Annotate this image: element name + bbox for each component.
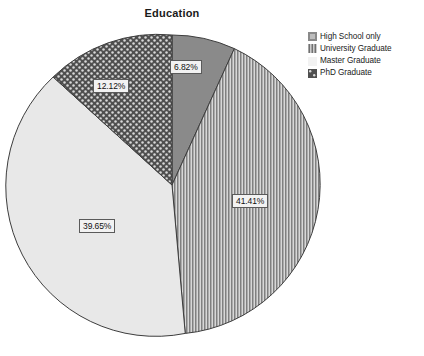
legend-swatch-icon-university-graduate xyxy=(308,44,317,53)
legend-item-university-graduate[interactable]: University Graduate xyxy=(308,43,424,55)
legend-label: University Graduate xyxy=(320,44,391,54)
legend-swatch-icon-master-graduate xyxy=(308,57,317,66)
legend-swatch-icon-phd-graduate xyxy=(308,69,317,78)
slice-value-high-school-only: 6.82% xyxy=(170,60,202,74)
legend-item-phd-graduate[interactable]: PhD Graduate xyxy=(308,68,424,80)
legend-label: PhD Graduate xyxy=(320,68,372,78)
legend: High School only University Graduate Mas… xyxy=(308,31,424,80)
legend-swatch-icon-high-school-only xyxy=(308,32,317,41)
legend-item-high-school-only[interactable]: High School only xyxy=(308,31,424,43)
pie-slices xyxy=(6,34,320,336)
legend-item-master-graduate[interactable]: Master Graduate xyxy=(308,55,424,67)
legend-label: High School only xyxy=(320,32,381,42)
slice-value-university-graduate: 41.41% xyxy=(232,194,268,208)
slice-value-master-graduate: 39.65% xyxy=(79,219,115,233)
legend-label: Master Graduate xyxy=(320,56,381,66)
pie-chart: Education 6.82% xyxy=(0,0,424,356)
slice-value-phd-graduate: 12.12% xyxy=(93,79,129,93)
